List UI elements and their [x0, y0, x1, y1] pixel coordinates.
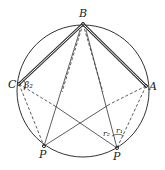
label-a: A [148, 80, 157, 93]
diagram-canvas: B C A P P β₂ r₂ r₁ [0, 0, 165, 170]
dashed-a-p2 [117, 86, 146, 148]
geometry-diagram: B C A P P β₂ r₂ r₁ [0, 0, 165, 170]
line-a-p1 [44, 104, 110, 146]
label-p1: P [38, 148, 47, 161]
label-beta2: β₂ [23, 80, 33, 90]
dashed-a-p1 [110, 86, 146, 104]
label-r1: r₁ [116, 126, 123, 135]
label-c: C [8, 78, 17, 91]
line-b-p1 [44, 30, 80, 146]
label-p2: P [112, 150, 121, 163]
label-r2: r₂ [103, 129, 110, 138]
label-b: B [78, 7, 87, 20]
dashed-c-p1 [19, 84, 44, 146]
circumcircle [17, 25, 149, 157]
